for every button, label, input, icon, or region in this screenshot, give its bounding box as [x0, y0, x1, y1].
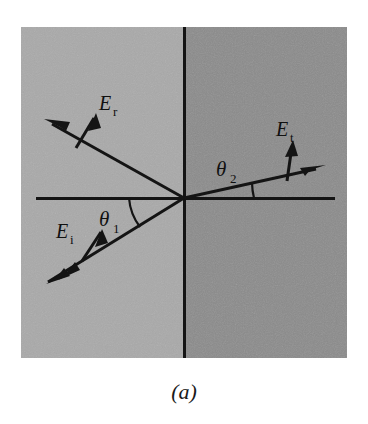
incident-field-subscript: i [70, 232, 74, 247]
incident-field-label: E [55, 220, 68, 242]
optics-diagram: E i E r E t θ 1 [0, 0, 368, 424]
theta2-subscript: 2 [230, 171, 237, 186]
figure-container: E i E r E t θ 1 [0, 0, 368, 424]
figure-caption: (a) [171, 379, 197, 404]
theta2-label: θ [216, 157, 226, 181]
theta1-label: θ [99, 207, 109, 231]
theta1-subscript: 1 [113, 221, 120, 236]
reflected-field-subscript: r [113, 104, 118, 119]
transmitted-field-subscript: t [290, 130, 294, 145]
left-medium-region [21, 27, 184, 358]
transmitted-field-label: E [275, 118, 288, 140]
reflected-field-label: E [98, 92, 111, 114]
